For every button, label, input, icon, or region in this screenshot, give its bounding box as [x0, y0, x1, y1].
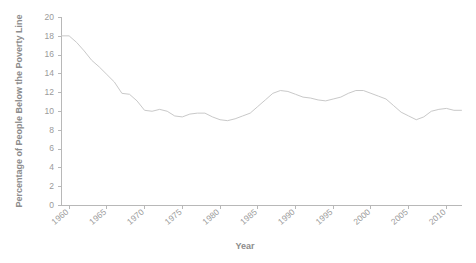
- y-tick-label: 8: [49, 125, 54, 135]
- y-tick-label: 0: [49, 200, 54, 210]
- chart-page: 20 18 16 14 12 10 8 6 4 2 0: [0, 0, 476, 263]
- y-tick-label: 2: [49, 181, 54, 191]
- y-tick-label: 12: [45, 87, 55, 97]
- y-tick-label: 6: [49, 143, 54, 153]
- y-tick-label: 18: [45, 31, 55, 41]
- x-axis-title: Year: [235, 241, 255, 251]
- poverty-rate-line-chart: 20 18 16 14 12 10 8 6 4 2 0: [0, 0, 476, 263]
- x-tick-label: 1980: [200, 207, 221, 227]
- x-tick-label: 1975: [163, 207, 184, 227]
- x-tick-label: 2000: [351, 207, 372, 227]
- x-tick-label: 2010: [427, 207, 448, 227]
- y-tick-label: 20: [45, 12, 55, 22]
- y-tick-label: 14: [45, 68, 55, 78]
- y-tick-label: 10: [45, 106, 55, 116]
- x-tick-label: 1985: [238, 207, 259, 227]
- x-tick-labels: 1960 1965 1970 1975 1980 1985 1990 1995 …: [49, 207, 447, 227]
- y-tick-labels: 20 18 16 14 12 10 8 6 4 2 0: [45, 12, 55, 210]
- y-tick-marks: [58, 18, 62, 206]
- x-tick-label: 2005: [389, 207, 410, 227]
- x-tick-label: 1990: [276, 207, 297, 227]
- x-tick-label: 1970: [125, 207, 146, 227]
- y-tick-label: 4: [49, 162, 54, 172]
- poverty-rate-series-line: [62, 36, 462, 121]
- x-tick-marks: [69, 206, 446, 210]
- y-axis-title: Percentage of People Below the Poverty L…: [14, 14, 24, 207]
- y-tick-label: 16: [45, 49, 55, 59]
- x-tick-label: 1965: [87, 207, 108, 227]
- x-tick-label: 1995: [314, 207, 335, 227]
